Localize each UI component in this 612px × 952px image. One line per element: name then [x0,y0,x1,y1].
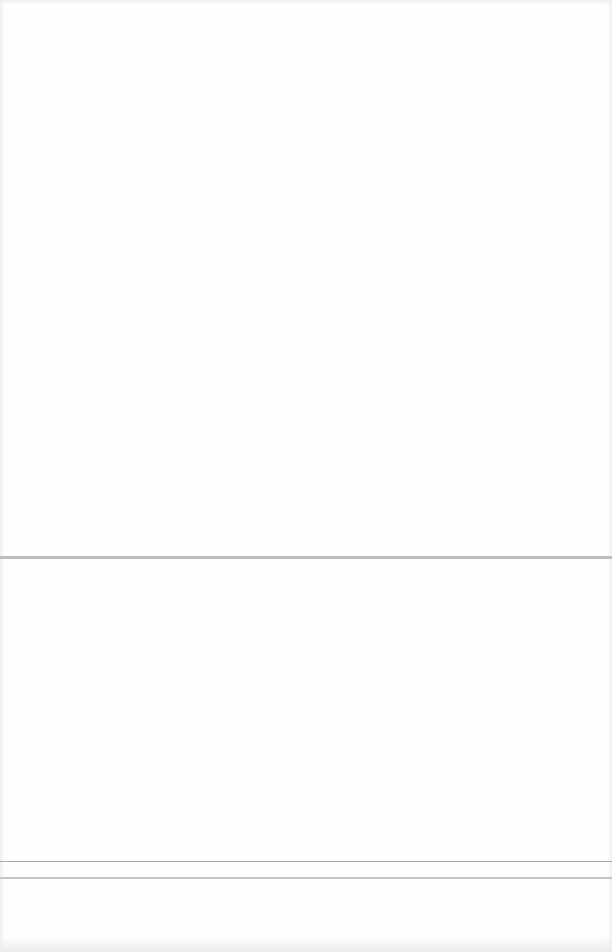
page-top-edge-shadow [0,0,612,5]
section-divider-upper [0,556,612,559]
section-divider-lower-a [0,861,612,862]
section-divider-lower-b [0,877,612,879]
scanned-page [0,0,612,952]
page-bottom-edge-shadow [0,936,612,952]
